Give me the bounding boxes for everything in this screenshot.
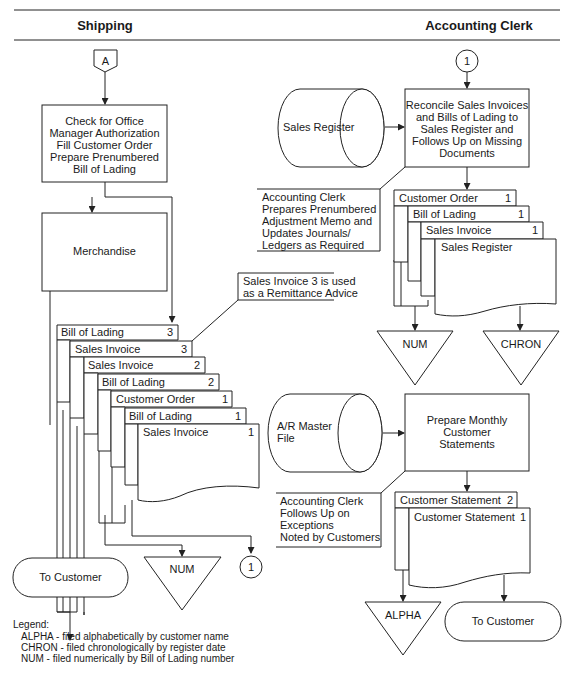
svg-text:Fill Customer Order: Fill Customer Order <box>57 139 153 151</box>
svg-text:3: 3 <box>167 326 173 338</box>
svg-text:Sales Invoice: Sales Invoice <box>143 426 208 438</box>
terminal-to-customer-shipping: To Customer <box>13 558 128 597</box>
svg-text:Statements: Statements <box>439 438 495 450</box>
svg-text:1: 1 <box>248 426 254 438</box>
svg-text:Reconcile Sales Invoices: Reconcile Sales Invoices <box>406 99 529 111</box>
svg-text:Customer Statement: Customer Statement <box>414 511 515 523</box>
process-prepare-statements: Prepare Monthly Customer Statements <box>405 394 529 471</box>
svg-text:Sales Register: Sales Register <box>283 121 355 133</box>
svg-text:Follows Up on: Follows Up on <box>280 507 350 519</box>
svg-text:Merchandise: Merchandise <box>73 245 136 257</box>
file-chron: CHRON <box>483 331 559 385</box>
lane-title-accounting: Accounting Clerk <box>425 18 533 33</box>
file-num-accounting: NUM <box>377 331 453 385</box>
svg-text:Sales Invoice: Sales Invoice <box>88 359 153 371</box>
svg-text:ALPHA: ALPHA <box>385 609 422 621</box>
svg-text:2: 2 <box>208 376 214 388</box>
svg-text:NUM: NUM <box>402 338 427 350</box>
svg-text:Ledgers as Required: Ledgers as Required <box>262 239 364 251</box>
svg-text:To Customer: To Customer <box>39 571 102 583</box>
shipping-doc-stack: Bill of Lading 3 Sales Invoice 3 Sales I… <box>57 325 259 502</box>
svg-text:Sales Register: Sales Register <box>441 241 513 253</box>
process-reconcile: Reconcile Sales Invoices and Bills of La… <box>405 89 529 167</box>
annotation-remittance-advice: Sales Invoice 3 is used as a Remittance … <box>192 273 358 341</box>
customer-statement-stack: Customer Statement 2 Customer Statement … <box>395 492 530 588</box>
svg-text:NUM - filed numerically by Bil: NUM - filed numerically by Bill of Ladin… <box>21 653 235 664</box>
svg-text:Updates Journals/: Updates Journals/ <box>262 227 352 239</box>
connector-1-out: 1 <box>240 556 262 578</box>
svg-text:1: 1 <box>532 224 538 236</box>
svg-text:Legend:: Legend: <box>13 619 49 630</box>
process-check-authorization: Check for Office Manager Authorization F… <box>42 105 167 182</box>
svg-text:Prepare Monthly: Prepare Monthly <box>427 414 508 426</box>
svg-text:Customer Statement: Customer Statement <box>400 494 501 506</box>
file-alpha: ALPHA <box>365 602 441 655</box>
svg-text:Exceptions: Exceptions <box>280 519 334 531</box>
svg-text:1: 1 <box>248 561 254 573</box>
storage-sales-register: Sales Register <box>278 89 384 167</box>
file-num-shipping: NUM <box>144 557 221 610</box>
svg-text:To Customer: To Customer <box>472 615 535 627</box>
svg-text:Bill of Lading: Bill of Lading <box>102 376 165 388</box>
svg-text:1: 1 <box>464 55 470 67</box>
svg-text:Manager Authorization: Manager Authorization <box>49 127 159 139</box>
svg-text:Adjustment Memo and: Adjustment Memo and <box>262 215 372 227</box>
svg-text:1: 1 <box>505 192 511 204</box>
svg-text:1: 1 <box>222 393 228 405</box>
lane-title-shipping: Shipping <box>77 18 133 33</box>
flowchart-canvas: Shipping Accounting Clerk A Check for Of… <box>0 0 576 674</box>
svg-text:1: 1 <box>520 511 526 523</box>
svg-text:Sales Register and: Sales Register and <box>421 123 514 135</box>
svg-text:Prepares Prenumbered: Prepares Prenumbered <box>262 203 376 215</box>
svg-text:1: 1 <box>235 410 241 422</box>
off-page-connector-a: A <box>94 50 117 72</box>
accounting-doc-stack: Customer Order 1 Bill of Lading 1 Sales … <box>394 190 556 316</box>
svg-text:Accounting Clerk: Accounting Clerk <box>280 495 364 507</box>
svg-text:A: A <box>102 55 110 67</box>
svg-text:Customer: Customer <box>443 426 491 438</box>
svg-text:2: 2 <box>194 359 200 371</box>
terminal-to-customer-accounting: To Customer <box>445 602 561 641</box>
legend: Legend: ALPHA - filed alphabetically by … <box>13 619 235 664</box>
annotation-follow-up-exceptions: Accounting Clerk Follows Up on Exception… <box>276 471 405 547</box>
annotation-adjustment-memo: Accounting Clerk Prepares Prenumbered Ad… <box>257 167 405 251</box>
svg-text:Noted by Customers: Noted by Customers <box>280 531 381 543</box>
svg-text:Sales Invoice: Sales Invoice <box>426 224 491 236</box>
connector-1-in: 1 <box>456 50 478 72</box>
svg-text:Bill of Lading: Bill of Lading <box>61 326 124 338</box>
svg-text:3: 3 <box>181 343 187 355</box>
svg-text:2: 2 <box>507 494 513 506</box>
svg-text:and Bills of Lading to: and Bills of Lading to <box>416 111 518 123</box>
svg-text:File: File <box>277 432 295 444</box>
svg-text:as a Remittance Advice: as a Remittance Advice <box>243 287 358 299</box>
svg-text:Customer Order: Customer Order <box>399 192 478 204</box>
svg-text:Bill of Lading: Bill of Lading <box>413 208 476 220</box>
svg-text:1: 1 <box>518 208 524 220</box>
svg-text:CHRON: CHRON <box>501 338 541 350</box>
svg-text:Bill of Lading: Bill of Lading <box>129 410 192 422</box>
svg-text:NUM: NUM <box>169 563 194 575</box>
svg-text:Customer Order: Customer Order <box>116 393 195 405</box>
merchandise-box: Merchandise <box>42 213 167 291</box>
svg-text:Follows Up on Missing: Follows Up on Missing <box>412 135 522 147</box>
svg-text:CHRON - filed chronologically: CHRON - filed chronologically by registe… <box>21 642 226 653</box>
header-band: Shipping Accounting Clerk <box>14 10 560 40</box>
svg-text:Sales Invoice 3 is used: Sales Invoice 3 is used <box>243 275 356 287</box>
svg-text:Accounting Clerk: Accounting Clerk <box>262 191 346 203</box>
svg-text:Check for Office: Check for Office <box>65 115 144 127</box>
svg-text:Documents: Documents <box>439 147 495 159</box>
svg-text:A/R Master: A/R Master <box>277 420 332 432</box>
storage-ar-master-file: A/R Master File <box>268 394 382 472</box>
svg-text:Sales Invoice: Sales Invoice <box>75 343 140 355</box>
svg-text:ALPHA - filed alphabetically b: ALPHA - filed alphabetically by customer… <box>21 631 229 642</box>
svg-text:Bill of Lading: Bill of Lading <box>73 163 136 175</box>
svg-text:Prepare Prenumbered: Prepare Prenumbered <box>50 151 159 163</box>
